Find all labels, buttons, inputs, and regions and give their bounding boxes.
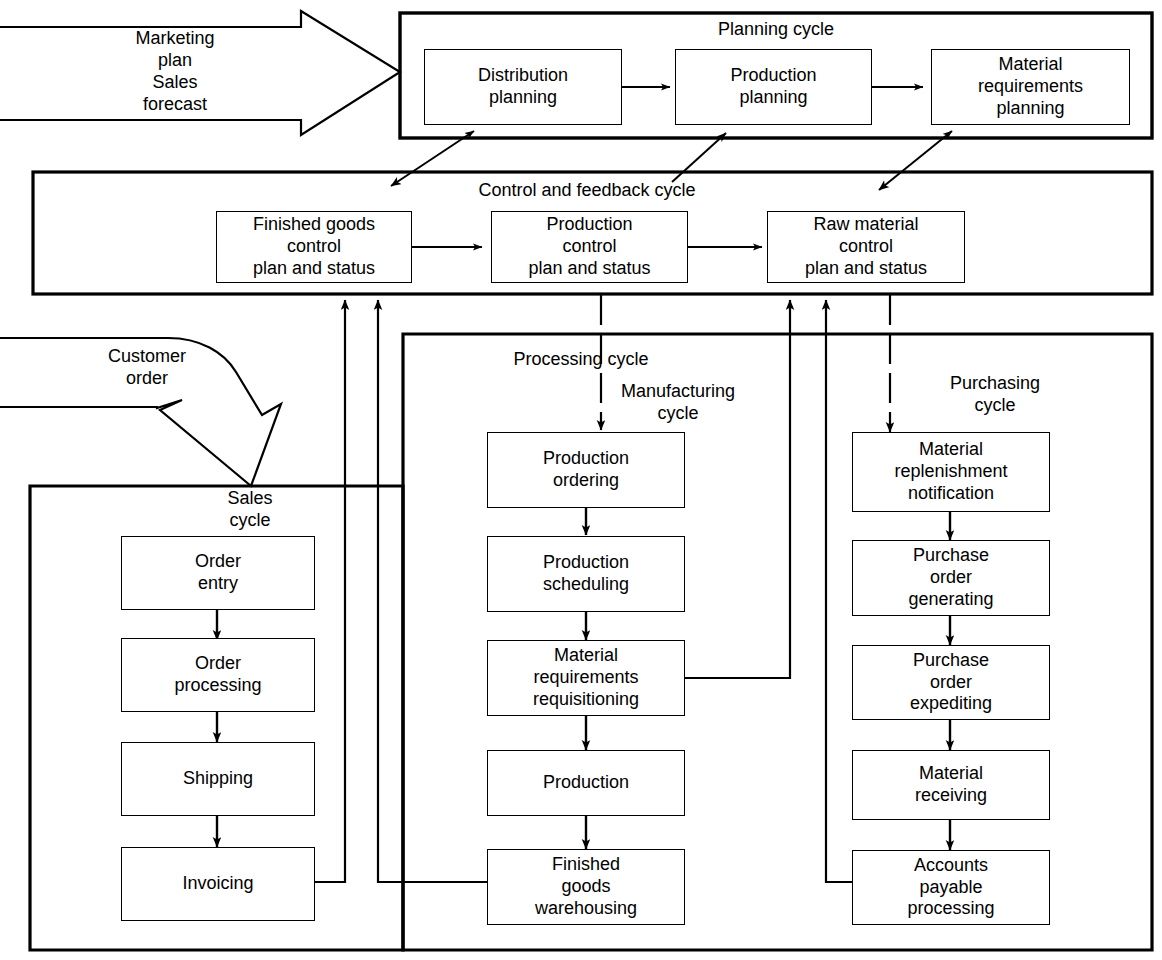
node-invoicing[interactable]: Invoicing: [121, 847, 315, 921]
control-cycle-label: Control and feedback cycle: [437, 180, 737, 202]
purchasing-cycle-label: Purchasing cycle: [900, 373, 1090, 417]
manufacturing-cycle-label: Manufacturing cycle: [588, 381, 768, 425]
node-shipping[interactable]: Shipping: [121, 742, 315, 816]
node-material-receiving[interactable]: Material receiving: [852, 750, 1050, 820]
node-accounts-payable-processing[interactable]: Accounts payable processing: [852, 850, 1050, 925]
flowchart-canvas: Marketing plan Sales forecast Customer o…: [0, 0, 1162, 960]
processing-cycle-label: Processing cycle: [466, 349, 696, 371]
node-material-replenishment-notification[interactable]: Material replenishment notification: [852, 432, 1050, 512]
node-production[interactable]: Production: [487, 750, 685, 816]
node-order-entry[interactable]: Order entry: [121, 536, 315, 610]
node-order-processing[interactable]: Order processing: [121, 638, 315, 712]
arrow-pc-pp: [672, 133, 726, 182]
node-purchase-order-generating[interactable]: Purchase order generating: [852, 540, 1050, 616]
planning-cycle-label: Planning cycle: [626, 19, 926, 41]
node-production-scheduling[interactable]: Production scheduling: [487, 536, 685, 612]
node-production-control[interactable]: Production control plan and status: [491, 211, 688, 283]
feedback-invoicing-to-fgc: [315, 300, 345, 882]
node-production-planning[interactable]: Production planning: [675, 49, 872, 125]
sales-cycle-label: Sales cycle: [170, 488, 330, 532]
node-raw-material-control[interactable]: Raw material control plan and status: [767, 211, 965, 283]
node-distribution-planning[interactable]: Distribution planning: [424, 49, 622, 125]
node-purchase-order-expediting[interactable]: Purchase order expediting: [852, 645, 1050, 720]
marketing-input-label: Marketing plan Sales forecast: [70, 28, 280, 116]
arrow-rmc-mrp: [879, 131, 952, 190]
node-material-requirements-planning[interactable]: Material requirements planning: [931, 49, 1130, 125]
node-production-ordering[interactable]: Production ordering: [487, 432, 685, 508]
node-finished-goods-control[interactable]: Finished goods control plan and status: [216, 211, 412, 283]
feedback-fgwarehousing-to-fgc: [378, 300, 487, 882]
feedback-accounts-payable-to-rmc: [826, 300, 852, 882]
node-finished-goods-warehousing[interactable]: Finished goods warehousing: [487, 849, 685, 925]
feedback-mrr-to-rmc: [685, 300, 790, 678]
node-material-requirements-requisitioning[interactable]: Material requirements requisitioning: [487, 640, 685, 716]
customer-input-label: Customer order: [42, 346, 252, 390]
